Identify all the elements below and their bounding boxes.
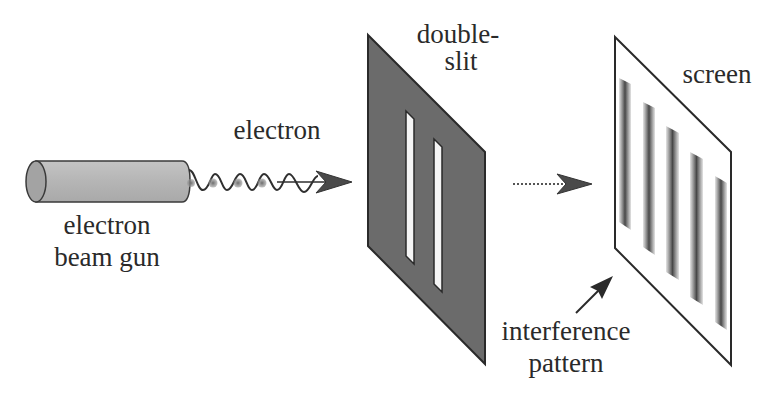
gun-cap [26, 161, 46, 202]
slit-1 [406, 111, 414, 264]
fringe-2 [643, 102, 655, 255]
electron-beam-gun [26, 161, 190, 202]
electron-particle [234, 179, 243, 188]
double-slit-diagram: electron beam gun electron double- slit … [0, 0, 777, 396]
label-screen: screen [683, 59, 752, 89]
fringe-5 [715, 176, 727, 330]
wave-line [189, 170, 318, 192]
electron-wave [187, 170, 352, 193]
slit-2 [434, 139, 442, 292]
double-slit-plate [368, 35, 485, 364]
electron-particle [187, 179, 195, 187]
electron-particle [258, 179, 267, 188]
label-interference-line2: pattern [529, 348, 604, 378]
label-electron-beam-gun-line2: beam gun [54, 242, 160, 272]
gun-body [36, 161, 190, 202]
fringe-3 [666, 126, 679, 280]
label-electron-beam-gun-line1: electron [64, 210, 151, 240]
propagation-arrow [513, 174, 592, 194]
electron-particle [209, 179, 218, 188]
label-double-slit-line2: slit [444, 46, 478, 76]
pattern-pointer [576, 276, 613, 313]
fringe-1 [619, 78, 631, 230]
label-double-slit-line1: double- [417, 19, 499, 49]
fringe-4 [690, 152, 703, 305]
slit-plate [368, 35, 485, 364]
label-interference-line1: interference [502, 316, 631, 346]
pointer-line [576, 289, 600, 313]
label-electron: electron [234, 115, 321, 145]
